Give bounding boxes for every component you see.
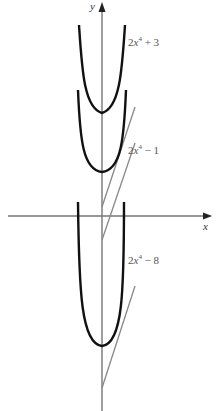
x-axis-label: x — [203, 220, 208, 232]
y-axis-arrow-icon — [99, 2, 106, 12]
x-axis-arrow-icon — [203, 213, 212, 220]
y-axis-label: y — [90, 0, 95, 12]
curve-label-1: 2x4 + 3 — [128, 35, 159, 48]
label-const: − 8 — [142, 254, 159, 266]
curve-label-2: 2x4 − 1 — [128, 143, 159, 156]
curve-2x4-minus-8 — [78, 202, 124, 346]
curve-label-3: 2x4 − 8 — [128, 253, 159, 266]
graph-canvas — [0, 0, 216, 411]
tangent-line-3 — [102, 286, 135, 388]
label-const: − 1 — [142, 144, 159, 156]
label-const: + 3 — [142, 36, 159, 48]
